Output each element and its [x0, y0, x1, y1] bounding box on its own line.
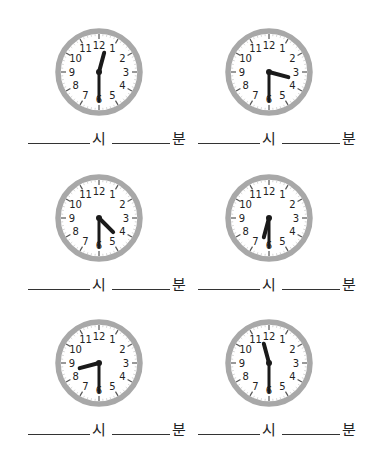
- svg-text:10: 10: [239, 53, 252, 64]
- svg-text:12: 12: [263, 331, 276, 342]
- svg-text:7: 7: [82, 236, 88, 247]
- svg-text:1: 1: [279, 189, 285, 200]
- analog-clock: 121234567891011: [219, 22, 319, 122]
- svg-text:11: 11: [249, 189, 262, 200]
- svg-text:8: 8: [72, 371, 78, 382]
- svg-text:11: 11: [79, 43, 92, 54]
- svg-text:7: 7: [252, 90, 258, 101]
- svg-text:9: 9: [239, 67, 245, 78]
- minute-blank[interactable]: [282, 129, 340, 144]
- svg-text:10: 10: [239, 199, 252, 210]
- svg-text:7: 7: [82, 90, 88, 101]
- minute-blank[interactable]: [112, 129, 170, 144]
- svg-text:4: 4: [289, 371, 295, 382]
- minute-blank[interactable]: [112, 420, 170, 435]
- svg-text:7: 7: [252, 381, 258, 392]
- svg-text:9: 9: [239, 213, 245, 224]
- analog-clock: 121234567891011: [219, 313, 319, 413]
- svg-text:2: 2: [119, 53, 125, 64]
- svg-text:4: 4: [289, 226, 295, 237]
- minute-unit-label: 분: [172, 127, 186, 148]
- svg-text:1: 1: [279, 43, 285, 54]
- analog-clock: 121234567891011: [49, 313, 149, 413]
- svg-text:8: 8: [72, 80, 78, 91]
- analog-clock: 121234567891011: [219, 168, 319, 268]
- svg-text:2: 2: [289, 199, 295, 210]
- svg-text:7: 7: [252, 236, 258, 247]
- svg-text:7: 7: [82, 381, 88, 392]
- time-answer-row: 시분: [28, 127, 188, 148]
- svg-text:9: 9: [69, 358, 75, 369]
- hour-blank[interactable]: [198, 275, 260, 290]
- svg-text:10: 10: [69, 344, 82, 355]
- svg-text:1: 1: [279, 334, 285, 345]
- time-answer-row: 시분: [198, 127, 358, 148]
- svg-text:1: 1: [109, 43, 115, 54]
- svg-text:8: 8: [72, 226, 78, 237]
- svg-text:2: 2: [289, 344, 295, 355]
- hour-unit-label: 시: [262, 273, 276, 294]
- analog-clock: 121234567891011: [49, 22, 149, 122]
- time-answer-row: 시분: [28, 418, 188, 439]
- svg-text:11: 11: [79, 334, 92, 345]
- minute-unit-label: 분: [172, 418, 186, 439]
- svg-text:11: 11: [79, 189, 92, 200]
- svg-text:12: 12: [263, 186, 276, 197]
- minute-blank[interactable]: [282, 275, 340, 290]
- svg-text:8: 8: [242, 80, 248, 91]
- time-answer-row: 시분: [198, 273, 358, 294]
- time-answer-row: 시분: [198, 418, 358, 439]
- hour-blank[interactable]: [198, 129, 260, 144]
- svg-text:8: 8: [242, 226, 248, 237]
- svg-text:9: 9: [69, 67, 75, 78]
- svg-text:4: 4: [119, 226, 125, 237]
- svg-text:5: 5: [279, 90, 285, 101]
- hour-blank[interactable]: [198, 420, 260, 435]
- svg-text:2: 2: [119, 344, 125, 355]
- hour-unit-label: 시: [262, 127, 276, 148]
- svg-text:3: 3: [293, 67, 299, 78]
- hour-blank[interactable]: [28, 275, 90, 290]
- hour-unit-label: 시: [262, 418, 276, 439]
- analog-clock: 121234567891011: [49, 168, 149, 268]
- svg-text:8: 8: [242, 371, 248, 382]
- minute-blank[interactable]: [282, 420, 340, 435]
- svg-text:4: 4: [289, 80, 295, 91]
- svg-text:3: 3: [293, 358, 299, 369]
- minute-blank[interactable]: [112, 275, 170, 290]
- hour-unit-label: 시: [92, 418, 106, 439]
- svg-text:5: 5: [279, 236, 285, 247]
- svg-text:9: 9: [69, 213, 75, 224]
- svg-text:9: 9: [239, 358, 245, 369]
- svg-text:10: 10: [69, 53, 82, 64]
- svg-text:2: 2: [289, 53, 295, 64]
- minute-unit-label: 분: [342, 418, 356, 439]
- hour-unit-label: 시: [92, 273, 106, 294]
- svg-text:10: 10: [69, 199, 82, 210]
- svg-text:3: 3: [123, 358, 129, 369]
- svg-text:5: 5: [109, 236, 115, 247]
- svg-text:3: 3: [123, 67, 129, 78]
- svg-text:5: 5: [109, 90, 115, 101]
- minute-unit-label: 분: [342, 127, 356, 148]
- svg-text:2: 2: [119, 199, 125, 210]
- svg-text:1: 1: [109, 334, 115, 345]
- svg-text:4: 4: [119, 371, 125, 382]
- svg-text:1: 1: [109, 189, 115, 200]
- time-answer-row: 시분: [28, 273, 188, 294]
- svg-text:10: 10: [239, 344, 252, 355]
- svg-text:5: 5: [279, 381, 285, 392]
- svg-text:11: 11: [249, 43, 262, 54]
- svg-text:5: 5: [109, 381, 115, 392]
- hour-blank[interactable]: [28, 420, 90, 435]
- minute-unit-label: 분: [172, 273, 186, 294]
- hour-unit-label: 시: [92, 127, 106, 148]
- svg-text:12: 12: [93, 40, 106, 51]
- minute-unit-label: 분: [342, 273, 356, 294]
- svg-text:11: 11: [249, 334, 262, 345]
- hour-blank[interactable]: [28, 129, 90, 144]
- svg-text:12: 12: [93, 186, 106, 197]
- svg-text:12: 12: [263, 40, 276, 51]
- svg-text:12: 12: [93, 331, 106, 342]
- svg-text:3: 3: [293, 213, 299, 224]
